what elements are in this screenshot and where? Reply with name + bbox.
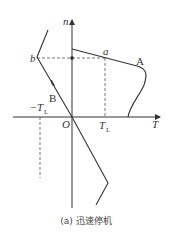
figure-caption: (a) 迅速停机 <box>60 215 111 226</box>
origin-label: O <box>62 118 70 130</box>
svg-text:−: − <box>30 101 36 113</box>
svg-text:L: L <box>106 126 110 134</box>
svg-text:T: T <box>37 101 44 113</box>
curve-b-label: B <box>49 92 56 104</box>
point-a-label: a <box>103 45 109 57</box>
svg-text:T: T <box>99 119 106 131</box>
curve-b-direction-arrow <box>52 80 55 86</box>
svg-text:L: L <box>44 108 48 116</box>
point-b-label: b <box>30 52 36 64</box>
tl-tick-label: T L <box>99 119 110 134</box>
curve-a-label: A <box>136 55 144 67</box>
neg-tl-tick-label: − T L <box>30 101 48 116</box>
axis-marker <box>71 57 74 60</box>
n-axis-label: n <box>63 15 69 27</box>
t-axis-label: T <box>152 118 159 130</box>
mechanical-characteristic-diagram: n T O a b A B T L − T L (a) 迅速停机 <box>0 0 172 239</box>
curve-a <box>72 49 146 117</box>
